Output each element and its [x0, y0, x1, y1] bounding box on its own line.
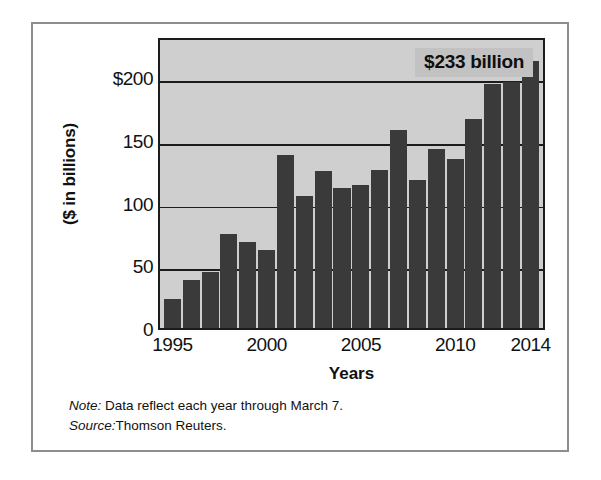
bar	[352, 185, 369, 328]
footnote: Note: Data reflect each year through Mar…	[69, 396, 549, 416]
bar	[333, 188, 350, 328]
bar	[484, 84, 501, 328]
x-tick-label: 2014	[510, 334, 550, 356]
bar-series	[160, 40, 543, 328]
x-axis-tick-labels: 19952000200520102014	[158, 334, 545, 362]
bar	[296, 196, 313, 328]
bar	[371, 170, 388, 328]
y-tick-label: 0	[83, 319, 153, 341]
footnote-text: Data reflect each year through March 7.	[101, 398, 343, 413]
bar	[522, 61, 539, 328]
bar	[447, 159, 464, 328]
value-callout: $233 billion	[415, 48, 533, 77]
y-axis-tick-labels: 050100150$200	[75, 38, 153, 330]
x-tick-label: 2005	[341, 334, 381, 356]
footnotes: Note: Data reflect each year through Mar…	[69, 396, 549, 435]
footnote-text: Thomson Reuters.	[116, 418, 227, 433]
bar	[465, 119, 482, 328]
bar	[315, 171, 332, 328]
footnote-lead: Note:	[69, 398, 101, 413]
footnote-lead: Source:	[69, 418, 116, 433]
x-tick-label: 2010	[435, 334, 475, 356]
bar	[390, 130, 407, 328]
bar	[183, 280, 200, 328]
bar	[428, 149, 445, 328]
chart-figure: ($ in billions) 050100150$200 $233 billi…	[31, 22, 569, 452]
x-axis-title: Years	[158, 364, 545, 384]
y-tick-label: $200	[83, 68, 153, 90]
x-tick-label: 1995	[152, 334, 192, 356]
footnote: Source:Thomson Reuters.	[69, 416, 549, 436]
bar	[277, 155, 294, 328]
bar	[220, 234, 237, 328]
y-tick-label: 50	[83, 256, 153, 278]
bar	[202, 272, 219, 328]
y-tick-label: 150	[83, 131, 153, 153]
bar	[258, 250, 275, 328]
bar	[239, 242, 256, 328]
bar	[503, 82, 520, 328]
bar	[409, 180, 426, 328]
y-tick-label: 100	[83, 194, 153, 216]
x-tick-label: 2000	[247, 334, 287, 356]
plot-area: $233 billion	[158, 38, 545, 330]
bar	[164, 299, 181, 328]
